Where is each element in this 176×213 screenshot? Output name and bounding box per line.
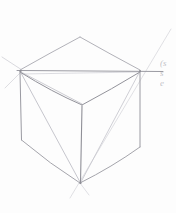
annotation-line-3: e: [160, 78, 176, 88]
vertex-right: [139, 70, 141, 72]
vertex-left: [19, 70, 21, 72]
annotation-line-2: s: [160, 68, 176, 78]
annotation-line-1: (s: [160, 58, 176, 68]
handwritten-annotation: (s s e: [160, 58, 176, 88]
sketch-page: (s s e: [0, 0, 176, 213]
cube-sketch-canvas: [0, 0, 176, 213]
vertex-bottom-front: [79, 182, 81, 184]
paper-background: [0, 0, 176, 213]
